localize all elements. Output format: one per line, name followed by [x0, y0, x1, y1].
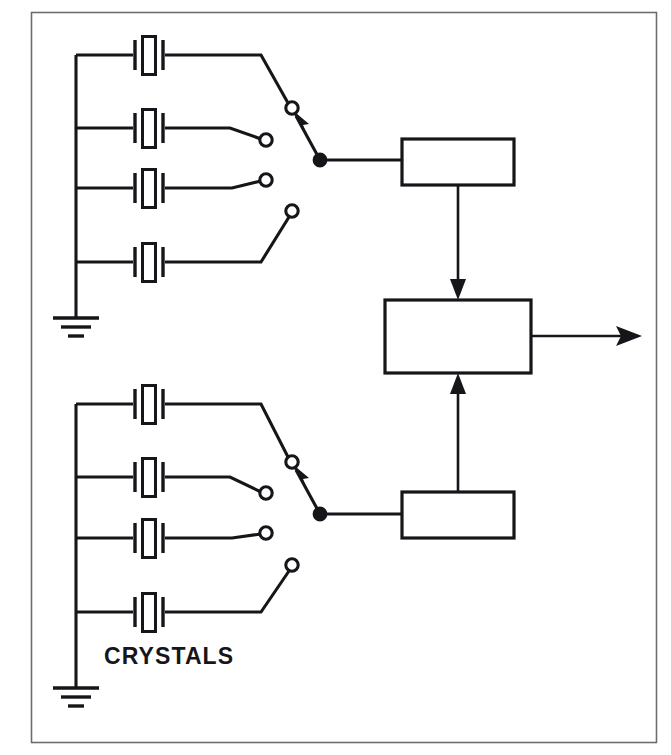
schematic-canvas: CRYSTALS	[0, 0, 671, 755]
upper-xtal-2	[135, 110, 163, 148]
lower-contact-4[interactable]	[286, 559, 298, 571]
mixer-input-top-arrow-icon	[450, 279, 466, 300]
upper-xtal-3	[135, 170, 163, 208]
mixer-input-bottom-arrow-icon	[450, 373, 466, 394]
upper-row3-right-lead	[165, 181, 261, 188]
lower-contact-1[interactable]	[286, 456, 298, 468]
upper-row2-right-lead	[165, 128, 261, 139]
lower-row4-right-lead	[165, 571, 289, 612]
upper-switch-pivot[interactable]	[314, 154, 327, 167]
lower-xtal-4	[135, 594, 163, 632]
upper-contact-2[interactable]	[260, 134, 272, 146]
upper-row4-right-lead	[165, 217, 289, 262]
upper-xtal-1	[135, 37, 163, 75]
upper-row1-right-lead	[165, 55, 288, 103]
upper-ground-icon	[53, 300, 99, 336]
upper-contact-1[interactable]	[286, 102, 298, 114]
lower-xtal-1	[135, 386, 163, 424]
upper-contact-4[interactable]	[286, 205, 298, 217]
lower-row1-right-lead	[165, 404, 288, 457]
upper-block[interactable]	[402, 139, 514, 185]
upper-bank	[53, 37, 514, 337]
mixer-group	[385, 185, 642, 492]
lower-block[interactable]	[402, 492, 514, 538]
upper-contact-3[interactable]	[260, 174, 272, 186]
lower-switch-pivot[interactable]	[314, 508, 327, 521]
lower-xtal-3	[135, 520, 163, 558]
lower-ground-icon	[53, 645, 99, 706]
figure-frame	[32, 13, 657, 743]
upper-xtal-4	[135, 244, 163, 282]
diagram-page: CRYSTALS	[0, 0, 671, 755]
mixer-block[interactable]	[385, 300, 531, 373]
lower-row3-right-lead	[165, 534, 261, 538]
lower-contact-2[interactable]	[260, 487, 272, 499]
crystals-label: CRYSTALS	[104, 643, 234, 669]
lower-xtal-2	[135, 459, 163, 497]
lower-row2-right-lead	[165, 477, 261, 492]
lower-contact-3[interactable]	[260, 527, 272, 539]
